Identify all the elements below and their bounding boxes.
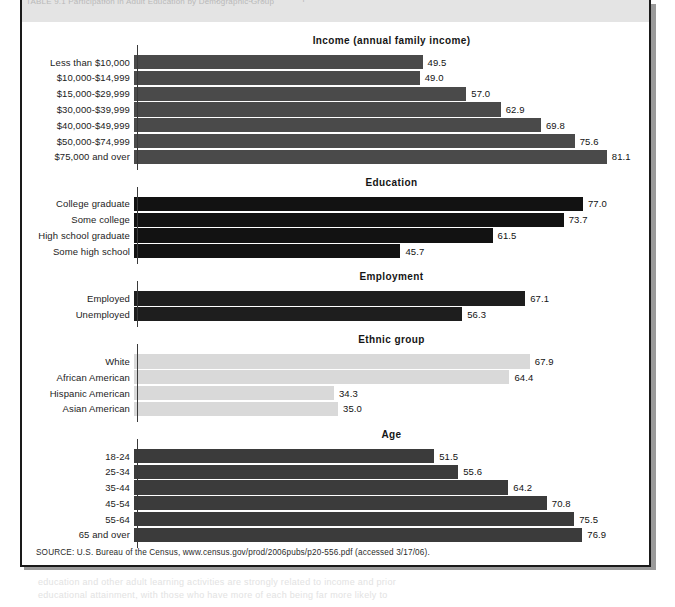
- category-axis-line: [137, 45, 138, 170]
- bar-category-label: 55-64: [22, 514, 134, 525]
- bar-value-label: 70.8: [547, 498, 571, 509]
- chart-bar-row: Some high school45.7: [22, 244, 649, 258]
- bar-category-label: White: [22, 356, 134, 367]
- bar: [134, 512, 574, 526]
- chart-bar-row: Asian American35.0: [22, 402, 649, 416]
- bar-value-label: 51.5: [434, 451, 458, 462]
- bar-category-label: Some college: [22, 214, 134, 225]
- figure-container: TABLE 9.1 Participation in Adult Educati…: [20, 0, 651, 567]
- chart-bar-row: Unemployed56.3: [22, 307, 649, 321]
- chart-bar-row: Less than $10,00049.5: [22, 55, 649, 69]
- chart-bar-row: 35-4464.2: [22, 480, 649, 494]
- bar-category-label: Hispanic American: [22, 388, 134, 399]
- chart-bar-row: $50,000-$74,99975.6: [22, 134, 649, 148]
- bar-track: 64.2: [134, 480, 649, 494]
- bar-category-label: 45-54: [22, 498, 134, 509]
- bar-value-label: 56.3: [462, 309, 486, 320]
- bar-value-label: 67.9: [530, 356, 554, 367]
- source-note: SOURCE: U.S. Bureau of the Census, www.c…: [36, 548, 430, 557]
- bar-category-label: 65 and over: [22, 529, 134, 540]
- category-axis-line: [137, 344, 138, 422]
- bar-value-label: 61.5: [493, 230, 517, 241]
- bar-track: 75.6: [134, 134, 649, 148]
- bar-category-label: $30,000-$39,999: [22, 104, 134, 115]
- chart-section: EducationCollege graduate77.0Some colleg…: [22, 164, 649, 259]
- bar-track: 73.7: [134, 213, 649, 227]
- bar-value-label: 55.6: [458, 466, 482, 477]
- bar-category-label: Employed: [22, 293, 134, 304]
- bar-track: 75.5: [134, 512, 649, 526]
- bar: [134, 528, 582, 542]
- chart-bar-row: $40,000-$49,99969.8: [22, 118, 649, 132]
- bar-value-label: 49.5: [423, 57, 447, 68]
- chart-bar-row: Some college73.7: [22, 213, 649, 227]
- bar-category-label: $10,000-$14,999: [22, 72, 134, 83]
- bar: [134, 87, 466, 101]
- bar-value-label: 57.0: [466, 88, 490, 99]
- bar-category-label: 18-24: [22, 451, 134, 462]
- section-rows: 18-2451.525-3455.635-4464.245-5470.855-6…: [22, 449, 649, 542]
- bar: [134, 480, 508, 494]
- bar-category-label: $15,000-$29,999: [22, 88, 134, 99]
- chart-bar-row: 55-6475.5: [22, 512, 649, 526]
- chart-bar-row: $75,000 and over81.1: [22, 150, 649, 164]
- bar-value-label: 67.1: [525, 293, 549, 304]
- section-title: Education: [22, 164, 649, 197]
- chart-bar-row: White67.9: [22, 354, 649, 368]
- chart-section: Income (annual family income)Less than $…: [22, 23, 649, 164]
- bar: [134, 228, 493, 242]
- bar: [134, 197, 583, 211]
- bar-value-label: 62.9: [501, 104, 525, 115]
- category-axis-line: [137, 281, 138, 327]
- bar: [134, 71, 420, 85]
- section-title: Income (annual family income): [22, 23, 649, 55]
- chart-bar-row: $10,000-$14,99949.0: [22, 71, 649, 85]
- bar-track: 45.7: [134, 244, 649, 258]
- bar: [134, 370, 509, 384]
- page-bleed-bottom-line-1: education and other adult learning activ…: [38, 576, 638, 589]
- bar-track: 67.9: [134, 354, 649, 368]
- bar: [134, 449, 434, 463]
- bar-track: 69.8: [134, 118, 649, 132]
- page-bleed-top-text: TABLE 9.1 Participation in Adult Educati…: [26, 0, 626, 6]
- bar-value-label: 34.3: [334, 388, 358, 399]
- bar-category-label: Asian American: [22, 403, 134, 414]
- section-rows: Employed67.1Unemployed56.3: [22, 291, 649, 321]
- bar-track: 55.6: [134, 465, 649, 479]
- bar-track: 57.0: [134, 87, 649, 101]
- section-title: Age: [22, 416, 649, 449]
- bar-category-label: High school graduate: [22, 230, 134, 241]
- bar-track: 62.9: [134, 102, 649, 116]
- bar-value-label: 81.1: [607, 151, 631, 162]
- bar-track: 64.4: [134, 370, 649, 384]
- bar: [134, 465, 458, 479]
- bar-track: 81.1: [134, 150, 649, 164]
- bar-category-label: $50,000-$74,999: [22, 136, 134, 147]
- bar-value-label: 75.5: [574, 514, 598, 525]
- bar-category-label: African American: [22, 372, 134, 383]
- bar-track: 49.0: [134, 71, 649, 85]
- bar-track: 49.5: [134, 55, 649, 69]
- chart-section: EmploymentEmployed67.1Unemployed56.3: [22, 258, 649, 321]
- bar: [134, 118, 541, 132]
- bar-track: 51.5: [134, 449, 649, 463]
- bar-category-label: Less than $10,000: [22, 57, 134, 68]
- bar-category-label: Some high school: [22, 246, 134, 257]
- bar-value-label: 75.6: [575, 136, 599, 147]
- bar-value-label: 64.4: [509, 372, 533, 383]
- bar: [134, 291, 525, 305]
- bar-category-label: 35-44: [22, 482, 134, 493]
- bar-category-label: College graduate: [22, 198, 134, 209]
- bar-track: 77.0: [134, 197, 649, 211]
- section-title: Employment: [22, 258, 649, 291]
- bar-value-label: 49.0: [420, 72, 444, 83]
- chart-bar-row: Employed67.1: [22, 291, 649, 305]
- bar-value-label: 77.0: [583, 198, 607, 209]
- bar-track: 67.1: [134, 291, 649, 305]
- chart-bar-row: African American64.4: [22, 370, 649, 384]
- bar-track: 76.9: [134, 528, 649, 542]
- chart-bar-row: College graduate77.0: [22, 197, 649, 211]
- bar: [134, 496, 547, 510]
- bar: [134, 354, 530, 368]
- bar-track: 70.8: [134, 496, 649, 510]
